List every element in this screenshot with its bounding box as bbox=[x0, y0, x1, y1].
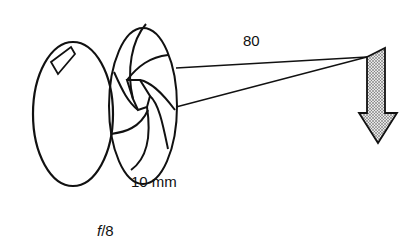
light-rays bbox=[176, 57, 367, 107]
aperture-diameter-label: 10 mm bbox=[131, 173, 177, 190]
distance-label: 80 bbox=[243, 32, 260, 49]
aperture-diagram bbox=[0, 0, 414, 239]
subject-arrow-icon bbox=[359, 48, 397, 143]
iris-diaphragm-icon bbox=[109, 24, 177, 184]
f-number-suffix: /8 bbox=[101, 222, 114, 239]
f-number-label: f/8 bbox=[97, 222, 114, 239]
lens-icon bbox=[33, 42, 113, 186]
